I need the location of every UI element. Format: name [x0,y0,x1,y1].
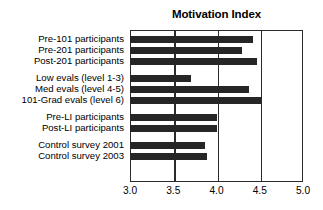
xtick-4.0: 4.0 [200,185,234,196]
xtick-4.5: 4.5 [243,185,277,196]
bar-pre-li-participants [130,114,217,121]
cropped-text-artifact [150,0,240,5]
bar-pre-101-participants [130,36,253,43]
bar-low-evals [130,75,191,82]
cat-label-control-survey-2003: Control survey 2003 [38,151,124,161]
cat-label-med-evals: Med evals (level 4-5) [35,84,124,94]
cat-label-post-201-participants: Post-201 participants [34,56,124,66]
chart-title: Motivation Index [130,8,303,20]
xtick-3.0: 3.0 [113,185,147,196]
cat-label-pre-101-participants: Pre-101 participants [38,34,124,44]
cat-label-low-evals: Low evals (level 1-3) [36,73,124,83]
cat-label-pre-li-participants: Pre-LI participants [46,112,124,122]
xtick-5.0: 5.0 [286,185,320,196]
bar-pre-201-participants [130,47,242,54]
chart-figure: Motivation Index Pre-101 participants Pr… [0,0,323,210]
cat-label-pre-201-participants: Pre-201 participants [38,45,124,55]
cat-label-post-li-participants: Post-LI participants [42,123,124,133]
cat-label-control-survey-2001: Control survey 2001 [38,140,124,150]
bar-med-evals [130,86,249,93]
bar-post-201-participants [130,58,257,65]
cat-label-101-grad-evals: 101-Grad evals (level 6) [22,95,124,105]
xtick-3.5: 3.5 [156,185,190,196]
category-labels: Pre-101 participants Pre-201 participant… [0,30,127,182]
bar-control-survey-2003 [130,153,207,160]
x-axis-ticks: 3.0 3.5 4.0 4.5 5.0 [0,185,323,201]
bar-101-grad-evals [130,97,261,104]
bars-layer [130,30,303,182]
bar-post-li-participants [130,125,217,132]
bar-control-survey-2001 [130,142,205,149]
